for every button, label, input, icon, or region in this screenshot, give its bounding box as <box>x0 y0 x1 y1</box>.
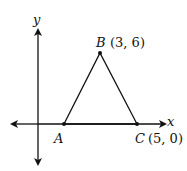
point-b <box>98 51 102 55</box>
y-axis-label: y <box>32 12 41 27</box>
x-axis-label: x <box>167 114 175 129</box>
point-b-label: B <box>95 35 106 50</box>
point-c-coords: (5, 0) <box>148 131 183 146</box>
point-a-label: A <box>53 131 63 146</box>
point-b-coords: (3, 6) <box>110 35 145 50</box>
point-c-label: C <box>135 131 145 146</box>
point-c <box>135 122 139 126</box>
triangle-abc <box>64 53 137 124</box>
point-a <box>62 122 66 126</box>
coordinate-diagram: x y A B (3, 6) C (5, 0) <box>0 0 187 171</box>
